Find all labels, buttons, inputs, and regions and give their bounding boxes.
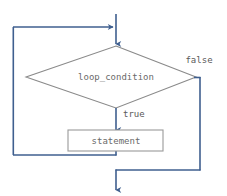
flowchart-canvas: loop_condition false true statement: [0, 0, 227, 196]
true-branch-label: true: [123, 109, 145, 119]
false-branch-label: false: [185, 55, 212, 65]
statement-label: statement: [92, 136, 141, 146]
flowchart-diagram: loop_condition false true statement: [0, 0, 227, 196]
decision-label: loop_condition: [78, 72, 154, 82]
